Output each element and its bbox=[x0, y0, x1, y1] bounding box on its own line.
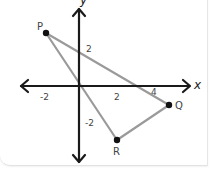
x-tick-neg2: -2 bbox=[40, 93, 49, 102]
point-r-label: R bbox=[113, 147, 120, 157]
point-p-label: P bbox=[37, 22, 43, 32]
x-tick-4: 4 bbox=[151, 88, 157, 97]
y-tick-2: 2 bbox=[86, 45, 92, 54]
x-axis-label: x bbox=[194, 79, 201, 91]
point-p-marker bbox=[43, 30, 49, 36]
x-tick-2: 2 bbox=[114, 93, 120, 102]
point-q-marker bbox=[166, 102, 172, 108]
coordinate-diagram: x y -2 2 4 2 -2 P Q R bbox=[0, 0, 221, 181]
plot-canvas bbox=[0, 0, 221, 181]
point-q-label: Q bbox=[175, 101, 183, 111]
segment-qr bbox=[117, 105, 169, 140]
point-r-marker bbox=[114, 137, 120, 143]
y-axis-label: y bbox=[80, 0, 87, 6]
y-tick-neg2: -2 bbox=[85, 119, 94, 128]
